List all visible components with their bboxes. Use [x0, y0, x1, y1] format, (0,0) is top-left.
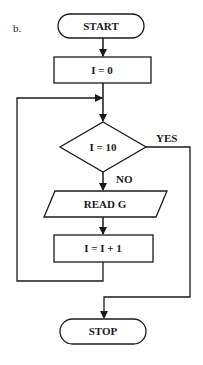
figure-label: b.: [13, 22, 22, 34]
init-process-box: I = 0: [54, 57, 151, 83]
start-terminator: START: [58, 14, 144, 38]
stop-terminator: STOP: [60, 319, 146, 344]
yes-label: YES: [156, 132, 177, 144]
init-text: I = 0: [91, 64, 113, 76]
start-text: START: [83, 20, 119, 32]
stop-text: STOP: [89, 325, 118, 337]
decision-text: I = 10: [89, 141, 117, 153]
read-io-parallelogram: READ G: [44, 191, 167, 217]
no-label: NO: [116, 173, 133, 185]
read-text: READ G: [84, 198, 127, 210]
increment-text: I = I + 1: [84, 242, 122, 254]
increment-process-box: I = I + 1: [54, 235, 153, 262]
flowchart: b. START I = 0 I = 10 YES NO READ G I = …: [0, 0, 203, 365]
decision-diamond: I = 10: [60, 122, 146, 172]
